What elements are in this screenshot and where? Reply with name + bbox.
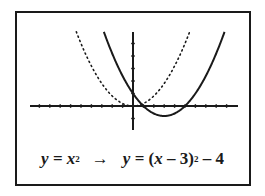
caption-left-eq: = <box>49 149 67 169</box>
caption-right-mid: – 3) <box>163 149 194 169</box>
axes <box>30 32 238 130</box>
caption-right-exp: 2 <box>194 154 199 164</box>
caption-right-x: x <box>154 149 163 169</box>
caption-right-y: y <box>123 149 131 169</box>
caption-right-tail: – 4 <box>198 149 224 169</box>
transformation-caption: y = x 2 → y = ( x – 3) 2 – 4 <box>0 149 265 171</box>
caption-left-exp: 2 <box>75 154 80 164</box>
caption-right-eq: = ( <box>130 149 154 169</box>
caption-left-x: x <box>67 149 76 169</box>
right-arrow-icon: → <box>92 149 109 169</box>
transformed-parabola-curve <box>104 32 225 116</box>
caption-left-y: y <box>41 149 49 169</box>
